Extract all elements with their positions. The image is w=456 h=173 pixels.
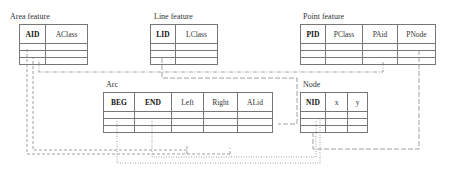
link-arc-alid-to-line — [162, 58, 297, 124]
link-point-paid-to-area — [39, 60, 383, 72]
link-point-pnode-to-node — [313, 50, 419, 149]
relationship-links — [0, 0, 456, 173]
link-arc-right-to-area — [27, 48, 230, 154]
link-arc-end-to-node — [152, 120, 316, 157]
link-arc-beg-to-node — [117, 118, 320, 163]
